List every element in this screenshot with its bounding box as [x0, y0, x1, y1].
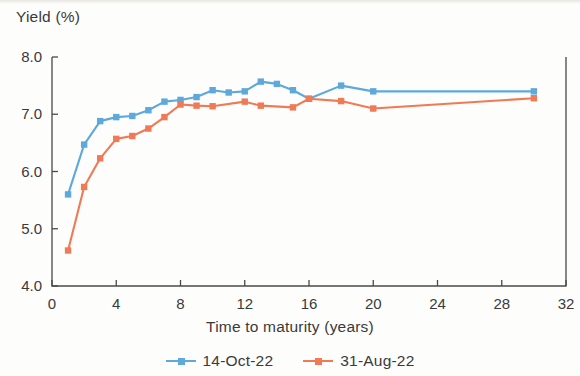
data-point-marker — [193, 102, 199, 108]
x-tick-label: 24 — [418, 295, 458, 312]
series-line — [68, 98, 534, 250]
x-tick-label: 0 — [32, 295, 72, 312]
data-point-marker — [145, 125, 151, 131]
data-point-marker — [177, 101, 183, 107]
data-point-marker — [338, 82, 344, 88]
data-point-marker — [370, 88, 376, 94]
data-point-marker — [531, 95, 537, 101]
data-point-marker — [161, 114, 167, 120]
x-tick-label: 20 — [353, 295, 393, 312]
data-point-marker — [209, 87, 215, 93]
data-point-marker — [531, 88, 537, 94]
legend-item[interactable]: 31-Aug-22 — [303, 352, 414, 370]
y-tick-label: 4.0 — [2, 277, 42, 294]
x-tick-label: 12 — [225, 295, 265, 312]
x-tick-label: 32 — [546, 295, 580, 312]
chart-legend: 14-Oct-2231-Aug-22 — [0, 352, 580, 370]
series-line — [68, 82, 534, 195]
y-tick-label: 6.0 — [2, 163, 42, 180]
data-point-marker — [65, 247, 71, 253]
data-point-marker — [97, 118, 103, 124]
data-point-marker — [274, 81, 280, 87]
series-14-Oct-22 — [65, 78, 537, 197]
data-point-marker — [81, 141, 87, 147]
data-point-marker — [193, 94, 199, 100]
legend-label: 31-Aug-22 — [340, 352, 414, 370]
x-tick-label: 8 — [161, 295, 201, 312]
data-point-marker — [145, 107, 151, 113]
data-point-marker — [290, 104, 296, 110]
legend-swatch-icon — [166, 354, 196, 368]
data-point-marker — [113, 114, 119, 120]
data-point-marker — [258, 78, 264, 84]
legend-item[interactable]: 14-Oct-22 — [166, 352, 274, 370]
data-point-marker — [242, 88, 248, 94]
x-tick-label: 28 — [482, 295, 522, 312]
data-point-marker — [290, 87, 296, 93]
data-point-marker — [81, 184, 87, 190]
data-point-marker — [129, 133, 135, 139]
data-point-marker — [242, 98, 248, 104]
legend-swatch-icon — [303, 354, 333, 368]
data-point-marker — [370, 105, 376, 111]
data-point-marker — [65, 191, 71, 197]
data-point-marker — [258, 102, 264, 108]
data-point-marker — [97, 155, 103, 161]
legend-marker-icon — [315, 358, 322, 365]
data-point-marker — [113, 136, 119, 142]
y-tick-label: 7.0 — [2, 105, 42, 122]
data-point-marker — [338, 98, 344, 104]
data-point-marker — [225, 89, 231, 95]
data-point-marker — [209, 103, 215, 109]
series-layer — [65, 78, 537, 253]
legend-label: 14-Oct-22 — [203, 352, 274, 370]
data-point-marker — [129, 113, 135, 119]
data-point-marker — [161, 98, 167, 104]
x-axis-title: Time to maturity (years) — [0, 318, 580, 336]
x-tick-label: 4 — [96, 295, 136, 312]
legend-marker-icon — [178, 358, 185, 365]
series-31-Aug-22 — [65, 95, 537, 254]
data-point-marker — [306, 96, 312, 102]
chart-figure: Yield (%) 4.05.06.07.08.0 04812162024283… — [0, 0, 580, 376]
y-tick-label: 8.0 — [2, 48, 42, 65]
x-tick-label: 16 — [289, 295, 329, 312]
y-tick-label: 5.0 — [2, 220, 42, 237]
